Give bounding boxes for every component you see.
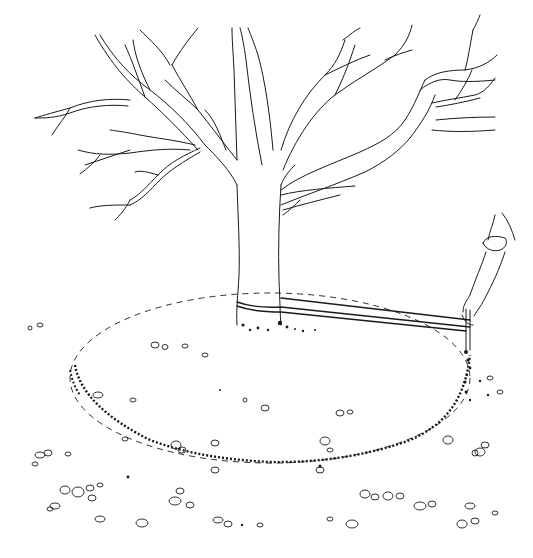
hand-with-stake	[462, 213, 515, 350]
pebbles	[28, 323, 503, 528]
rope	[237, 298, 470, 331]
illustration-canvas: Line drawing of a bare tree with a rope …	[0, 0, 533, 558]
tree-drawing	[0, 0, 533, 558]
soil-marks	[127, 321, 490, 526]
branches	[35, 15, 497, 220]
scribed-circle	[70, 293, 470, 463]
